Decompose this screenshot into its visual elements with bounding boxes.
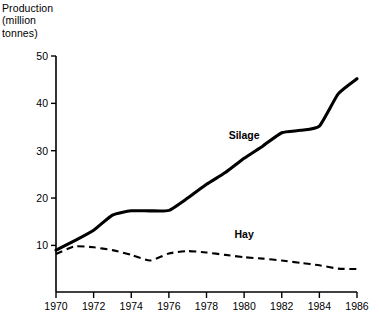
series-line-silage [56,79,357,250]
series-annotations: SilageHay [229,129,260,240]
x-tick-label: 1978 [195,300,219,312]
x-tick-labels: 197019721974197619781980198219841986 [44,300,369,312]
x-tick-label: 1976 [157,300,181,312]
x-tick-label: 1970 [44,300,68,312]
x-axis-group: 197019721974197619781980198219841986 [44,292,369,312]
x-tick-label: 1982 [270,300,294,312]
x-tick-label: 1974 [120,300,144,312]
x-tick-label: 1984 [308,300,332,312]
x-tick-label: 1972 [82,300,106,312]
y-tick-label: 10 [36,239,48,251]
chart-plot-area: 1020304050 19701972197419761978198019821… [0,0,379,328]
series-label-hay: Hay [234,228,253,240]
y-tick-label: 40 [36,97,48,109]
production-line-chart: Production (million tonnes) 1020304050 1… [0,0,379,328]
series-label-silage: Silage [229,129,260,141]
y-tick-label: 50 [36,50,48,62]
x-tick-label: 1986 [345,300,369,312]
y-tick-label: 20 [36,192,48,204]
x-tick-marks [56,292,357,298]
data-series-group [56,79,357,269]
series-line-hay [56,246,357,269]
x-tick-label: 1980 [232,300,256,312]
y-tick-labels: 1020304050 [36,50,48,251]
y-axis-group: 1020304050 [36,50,56,292]
y-tick-label: 30 [36,145,48,157]
